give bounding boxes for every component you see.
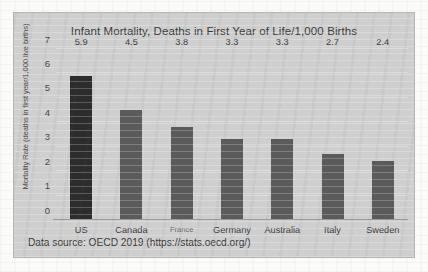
bar[interactable]: [70, 76, 92, 220]
y-axis-title: Mortality Rate (deaths in first year/1,0…: [21, 30, 30, 190]
bar-value-label: 3.8: [175, 38, 188, 47]
bar-value-label: 4.5: [125, 38, 138, 47]
bar-series: 5.9 US 4.5 Canada 3.8 France 3.3 Germany: [56, 49, 408, 220]
bar-slot: 3.3 Germany: [207, 49, 257, 220]
bar[interactable]: [271, 139, 293, 220]
y-axis-tick-label: 6: [45, 59, 50, 69]
bar[interactable]: [221, 139, 243, 220]
x-axis-line: [53, 219, 408, 220]
bar-value-label: 2.7: [326, 38, 339, 47]
x-axis-category-label: US: [75, 226, 88, 235]
chart-title: Infant Mortality, Deaths in First Year o…: [14, 25, 414, 37]
x-axis-category-label: Italy: [324, 226, 341, 235]
bar[interactable]: [322, 154, 344, 220]
bar-slot: 4.5 Canada: [106, 49, 156, 220]
y-axis-tick-label: 1: [45, 181, 50, 191]
y-axis-tick-label: 4: [45, 108, 50, 118]
x-axis-category-label: Sweden: [366, 226, 399, 235]
bar-slot: 2.7 Italy: [307, 49, 357, 220]
bar-value-label: 2.4: [376, 38, 389, 47]
y-axis-tick-label: 3: [45, 132, 50, 142]
bar-slot: 2.4 Sweden: [358, 49, 408, 220]
bar-slot: 5.9 US: [56, 49, 106, 220]
chart-container: Infant Mortality, Deaths in First Year o…: [13, 12, 415, 258]
y-axis-tick-label: 5: [45, 84, 50, 94]
bar[interactable]: [120, 110, 142, 220]
bar-slot: 3.8 France: [157, 49, 207, 220]
bar[interactable]: [171, 127, 193, 220]
bar[interactable]: [372, 161, 394, 220]
x-axis-category-label: Germany: [213, 226, 251, 235]
y-axis-tick-label: 2: [45, 157, 50, 167]
bar-value-label: 3.3: [276, 38, 289, 47]
plot-area: 7 6 5 4 3 2 1 0 5.9 US 4.5 Canada 3.8 Fr…: [56, 49, 408, 220]
x-axis-category-label: Australia: [264, 226, 300, 235]
x-axis-category-label: Canada: [115, 226, 147, 235]
bar-slot: 3.3 Australia: [257, 49, 307, 220]
bar-value-label: 3.3: [226, 38, 239, 47]
y-axis-tick-label: 0: [45, 206, 50, 216]
source-note: Data source: OECD 2019 (https://stats.oe…: [28, 237, 251, 248]
x-axis-category-label: France: [170, 226, 194, 234]
bar-value-label: 5.9: [75, 38, 88, 47]
